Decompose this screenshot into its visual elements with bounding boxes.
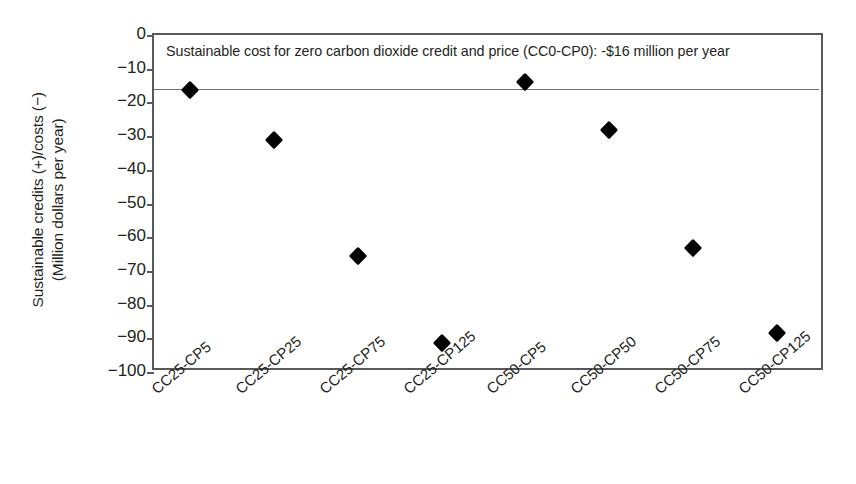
- y-axis-tick: [147, 136, 154, 138]
- y-axis-tick: [147, 69, 154, 71]
- y-axis-title-line2: (Million dollars per year): [48, 92, 68, 308]
- y-axis-title: Sustainable credits (+)/costs (−) (Milli…: [0, 0, 96, 400]
- plot-area: Sustainable cost for zero carbon dioxide…: [152, 33, 823, 370]
- y-axis-tick-label: 0: [137, 25, 146, 42]
- data-point-marker[interactable]: [265, 131, 283, 149]
- y-axis-tick-label: −80: [117, 294, 146, 311]
- chart-figure: Sustainable credits (+)/costs (−) (Milli…: [0, 0, 856, 484]
- y-axis-tick-label: −50: [117, 193, 146, 210]
- y-axis-title-line1: Sustainable credits (+)/costs (−): [28, 92, 48, 308]
- y-axis-tick: [147, 305, 154, 307]
- data-point-marker[interactable]: [768, 324, 786, 342]
- data-point-marker[interactable]: [181, 80, 199, 98]
- data-point-marker[interactable]: [600, 121, 618, 139]
- y-axis-tick-label: −40: [117, 159, 146, 176]
- y-axis-tick: [147, 237, 154, 239]
- y-axis-tick-label: −70: [117, 260, 146, 277]
- y-axis-tick-label: −10: [117, 58, 146, 75]
- reference-line-annotation: Sustainable cost for zero carbon dioxide…: [166, 43, 730, 59]
- y-axis-tick: [147, 372, 154, 374]
- y-axis-tick: [147, 204, 154, 206]
- y-axis-tick-label: −20: [117, 92, 146, 109]
- y-axis-tick: [147, 170, 154, 172]
- y-axis-tick-label: −90: [117, 328, 146, 345]
- reference-line: [154, 89, 819, 90]
- y-axis-tick-label: −100: [108, 362, 146, 379]
- y-axis-tick-labels: 0−10−20−30−40−50−60−70−80−90−100: [96, 0, 146, 484]
- y-axis-tick: [147, 271, 154, 273]
- data-point-marker[interactable]: [348, 247, 366, 265]
- data-point-marker[interactable]: [684, 239, 702, 257]
- y-axis-tick: [147, 338, 154, 340]
- y-axis-tick-label: −60: [117, 227, 146, 244]
- y-axis-tick-label: −30: [117, 126, 146, 143]
- data-point-marker[interactable]: [432, 334, 450, 352]
- y-axis-tick: [147, 102, 154, 104]
- y-axis-tick: [147, 35, 154, 37]
